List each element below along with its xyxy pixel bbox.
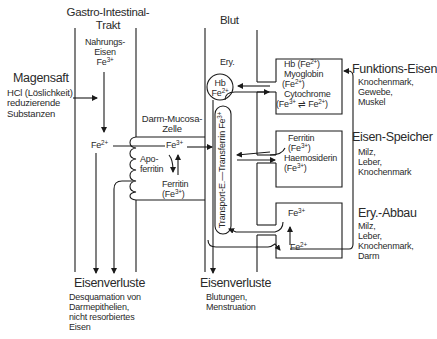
gi-eisenverluste-title: Eisenverluste bbox=[74, 277, 145, 291]
box-abbau bbox=[276, 203, 342, 258]
funktion-site: Muskel bbox=[358, 98, 414, 108]
mucosa-line2: Zelle bbox=[138, 124, 206, 134]
abbau-fe2-label: Fe2+ bbox=[290, 243, 307, 253]
gi-eisenverluste-lines: Desquamation von Darmepithelien, nicht r… bbox=[69, 293, 141, 333]
apoferritin-line2: ferritin bbox=[140, 165, 163, 175]
blood-eisenverluste-lines: Blutungen, Menstruation bbox=[206, 293, 256, 313]
eisen-speicher-lines: Milz, Leber, Knochenmark bbox=[358, 148, 411, 178]
gi-tract-title: Gastro-Intestinal- Trakt bbox=[66, 6, 150, 31]
hb-label: Hb Fe2+ bbox=[208, 79, 232, 99]
speicher-line4: (Fe3+) bbox=[284, 164, 337, 174]
ery-abbau-title: Ery.-Abbau bbox=[358, 207, 417, 221]
apoferritin-label: Apo- ferritin bbox=[140, 155, 163, 175]
gi-loss-line: Eisen bbox=[69, 323, 141, 333]
funktions-eisen-lines: Knochenmark, Gewebe, Muskel bbox=[358, 78, 414, 108]
gi-title-line2: Trakt bbox=[66, 19, 150, 32]
eisen-speicher-title: Eisen-Speicher bbox=[352, 131, 433, 145]
blood-loss-line: Menstruation bbox=[206, 303, 256, 313]
ery-label: Ery. bbox=[220, 58, 235, 68]
gi-title-line1: Gastro-Intestinal- bbox=[66, 6, 150, 19]
box-speicher-content: Ferritin (Fe3+) Haemosiderin (Fe3+) bbox=[288, 134, 337, 174]
mucosa-ferritin-label: Ferritin (Fe3+) bbox=[162, 180, 188, 200]
ery-abbau-lines: Milz, Leber, Knochenmark, Darm bbox=[358, 222, 414, 262]
hb-line2: Fe2+ bbox=[208, 89, 232, 99]
abbau-fe3-label: Fe3+ bbox=[288, 209, 305, 219]
mucosa-fe3-label: Fe3+ bbox=[166, 141, 183, 151]
blood-eisenverluste-title: Eisenverluste bbox=[200, 277, 271, 291]
funktion-line5: (Fe3+ ⇌ Fe2+) bbox=[276, 100, 331, 110]
darm-mucosa-label: Darm-Mucosa- Zelle bbox=[138, 114, 206, 135]
speicher-site: Knochenmark bbox=[358, 168, 411, 178]
magensaft-line: Substanzen bbox=[7, 109, 73, 119]
transferrin-label: Transport-E.—Transferrin Fe3+ bbox=[218, 112, 228, 228]
nahrung-ion: Fe3+ bbox=[84, 58, 126, 68]
abbau-site: Darm bbox=[358, 252, 414, 262]
nahrungs-eisen-label: Nahrungs- Eisen Fe3+ bbox=[84, 38, 126, 68]
mucosa-fe2-label: Fe2+ bbox=[91, 141, 108, 151]
magensaft-title: Magensaft bbox=[13, 72, 69, 86]
funktions-eisen-title: Funktions-Eisen bbox=[352, 63, 437, 77]
ferritin-line2: (Fe3+) bbox=[162, 190, 188, 200]
box-funktion-content: Hb (Fe2+) Myoglobin (Fe2+) Cytochrome (F… bbox=[280, 60, 331, 109]
magensaft-lines: HCl (Löslichkeit) reduzierende Substanze… bbox=[7, 88, 73, 119]
blood-title: Blut bbox=[220, 14, 239, 27]
